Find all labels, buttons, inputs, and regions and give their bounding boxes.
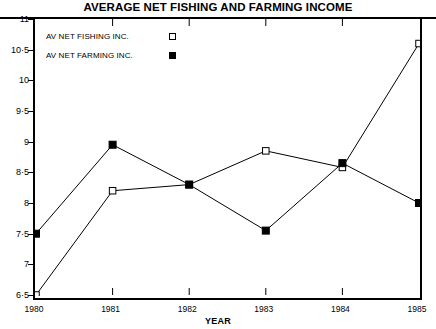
x-tick-label: 1981 (101, 304, 120, 314)
y-tick-mark (28, 111, 33, 112)
data-point (416, 200, 421, 207)
data-point (35, 230, 40, 237)
filled-square-icon (169, 52, 176, 59)
data-point (35, 292, 39, 296)
series-markers-farming (35, 141, 420, 237)
data-point (186, 181, 193, 188)
data-point (262, 227, 269, 234)
x-tick-label: 1985 (408, 304, 427, 314)
y-tick-mark (28, 234, 33, 235)
chart-title: AVERAGE NET FISHING AND FARMING INCOME (0, 1, 436, 13)
y-tick-mark (28, 142, 33, 143)
y-tick-label: 10·5 (11, 45, 29, 55)
y-tick-mark (28, 50, 33, 51)
legend-label-farming: AV NET FARMING INC. (46, 51, 169, 60)
data-point (109, 187, 116, 194)
y-tick-mark (28, 203, 33, 204)
y-tick-mark (28, 295, 33, 296)
x-tick-label: 1980 (25, 304, 44, 314)
legend-item-farming: AV NET FARMING INC. (46, 46, 176, 65)
y-tick-mark (28, 264, 33, 265)
open-square-icon (169, 33, 176, 40)
y-tick-mark (28, 80, 33, 81)
series-line-farming (36, 145, 419, 234)
x-tick-label: 1983 (254, 304, 273, 314)
data-point (109, 141, 116, 148)
y-tick-mark (28, 172, 33, 173)
y-tick-mark (28, 19, 33, 20)
data-point (263, 148, 270, 155)
data-point (416, 40, 420, 47)
x-tick-label: 1982 (178, 304, 197, 314)
legend-item-fishing: AV NET FISHING INC. (46, 27, 176, 46)
legend-label-fishing: AV NET FISHING INC. (46, 32, 169, 41)
data-point (339, 160, 346, 167)
series-line-fishing (36, 44, 419, 295)
chart-page: AVERAGE NET FISHING AND FARMING INCOME 6… (0, 0, 436, 329)
x-axis-title: YEAR (0, 316, 436, 326)
x-tick-label: 1984 (331, 304, 350, 314)
y-axis-tick-labels: 6·577·588·599·51010·511 (0, 0, 29, 329)
chart-legend: AV NET FISHING INC. AV NET FARMING INC. (46, 27, 176, 65)
